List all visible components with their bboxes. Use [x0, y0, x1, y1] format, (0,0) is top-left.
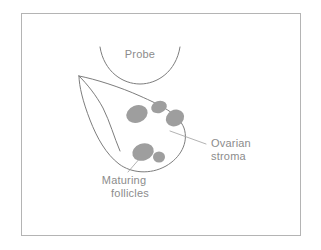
- figure-container: Probe Ovarian stroma Maturing follicles: [0, 0, 321, 250]
- follicle-lower-right: [153, 152, 165, 163]
- ovary-diagram: Probe Ovarian stroma Maturing follicles: [0, 0, 321, 250]
- maturing-follicles-label-line2: follicles: [111, 187, 149, 199]
- ovarian-stroma-label-line2: stroma: [211, 150, 246, 162]
- figure-frame: [22, 14, 301, 236]
- maturing-follicles-label-line1: Maturing: [102, 174, 146, 186]
- probe-label: Probe: [125, 48, 155, 60]
- ovarian-stroma-label-line1: Ovarian: [211, 137, 251, 149]
